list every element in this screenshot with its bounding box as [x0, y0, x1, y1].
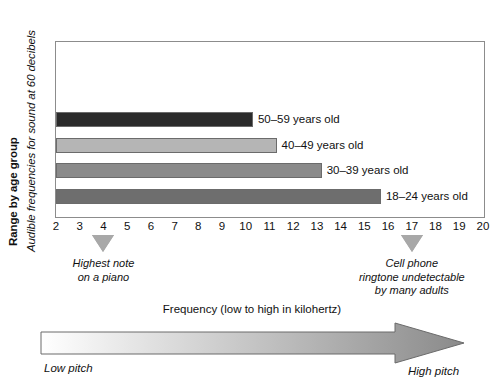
x-tick-18: 18: [424, 219, 448, 233]
pitch-gradient-arrow: [40, 322, 465, 364]
frequency-axis-title: Frequency (low to high in kilohertz): [0, 303, 504, 315]
x-tick-16: 16: [376, 219, 400, 233]
x-tick-20: 20: [471, 219, 495, 233]
x-tick-9: 9: [210, 219, 234, 233]
x-tick-11: 11: [257, 219, 281, 233]
x-tick-2: 2: [44, 219, 68, 233]
x-tick-4: 4: [91, 219, 115, 233]
annotation-triangle-2: [401, 235, 423, 252]
x-tick-15: 15: [352, 219, 376, 233]
bar-label-2: 40–49 years old: [282, 138, 364, 153]
annotation-caption-1: Highest noteon a piano: [3, 257, 203, 284]
x-tick-12: 12: [281, 219, 305, 233]
bar-label-1: 50–59 years old: [258, 112, 340, 127]
x-tick-10: 10: [234, 219, 258, 233]
bar-3: [56, 163, 322, 178]
y-axis-label-group: Range by age group Audible frequencies f…: [0, 0, 56, 232]
low-pitch-label: Low pitch: [44, 362, 93, 374]
y-axis-title-secondary: Audible frequencies for sound at 60 deci…: [26, 14, 40, 252]
bar-4: [56, 189, 381, 204]
x-axis-tick-labels: 234567891011121314151617181920: [0, 219, 504, 237]
bar-label-4: 18–24 years old: [386, 189, 468, 204]
bar-label-3: 30–39 years old: [327, 163, 409, 178]
annotation-triangle-1: [92, 235, 114, 252]
gradient-arrow-icon: [40, 322, 465, 364]
bar-2: [56, 138, 277, 153]
bar-1: [56, 112, 253, 127]
x-tick-19: 19: [447, 219, 471, 233]
x-tick-3: 3: [68, 219, 92, 233]
x-tick-7: 7: [163, 219, 187, 233]
annotation-caption-2: Cell phoneringtone undetectableby many a…: [312, 257, 504, 298]
x-tick-14: 14: [329, 219, 353, 233]
x-tick-8: 8: [186, 219, 210, 233]
y-axis-title-primary: Range by age group: [8, 14, 22, 246]
x-tick-6: 6: [139, 219, 163, 233]
x-tick-17: 17: [400, 219, 424, 233]
x-tick-13: 13: [305, 219, 329, 233]
x-tick-5: 5: [115, 219, 139, 233]
high-pitch-label: High pitch: [408, 365, 459, 377]
